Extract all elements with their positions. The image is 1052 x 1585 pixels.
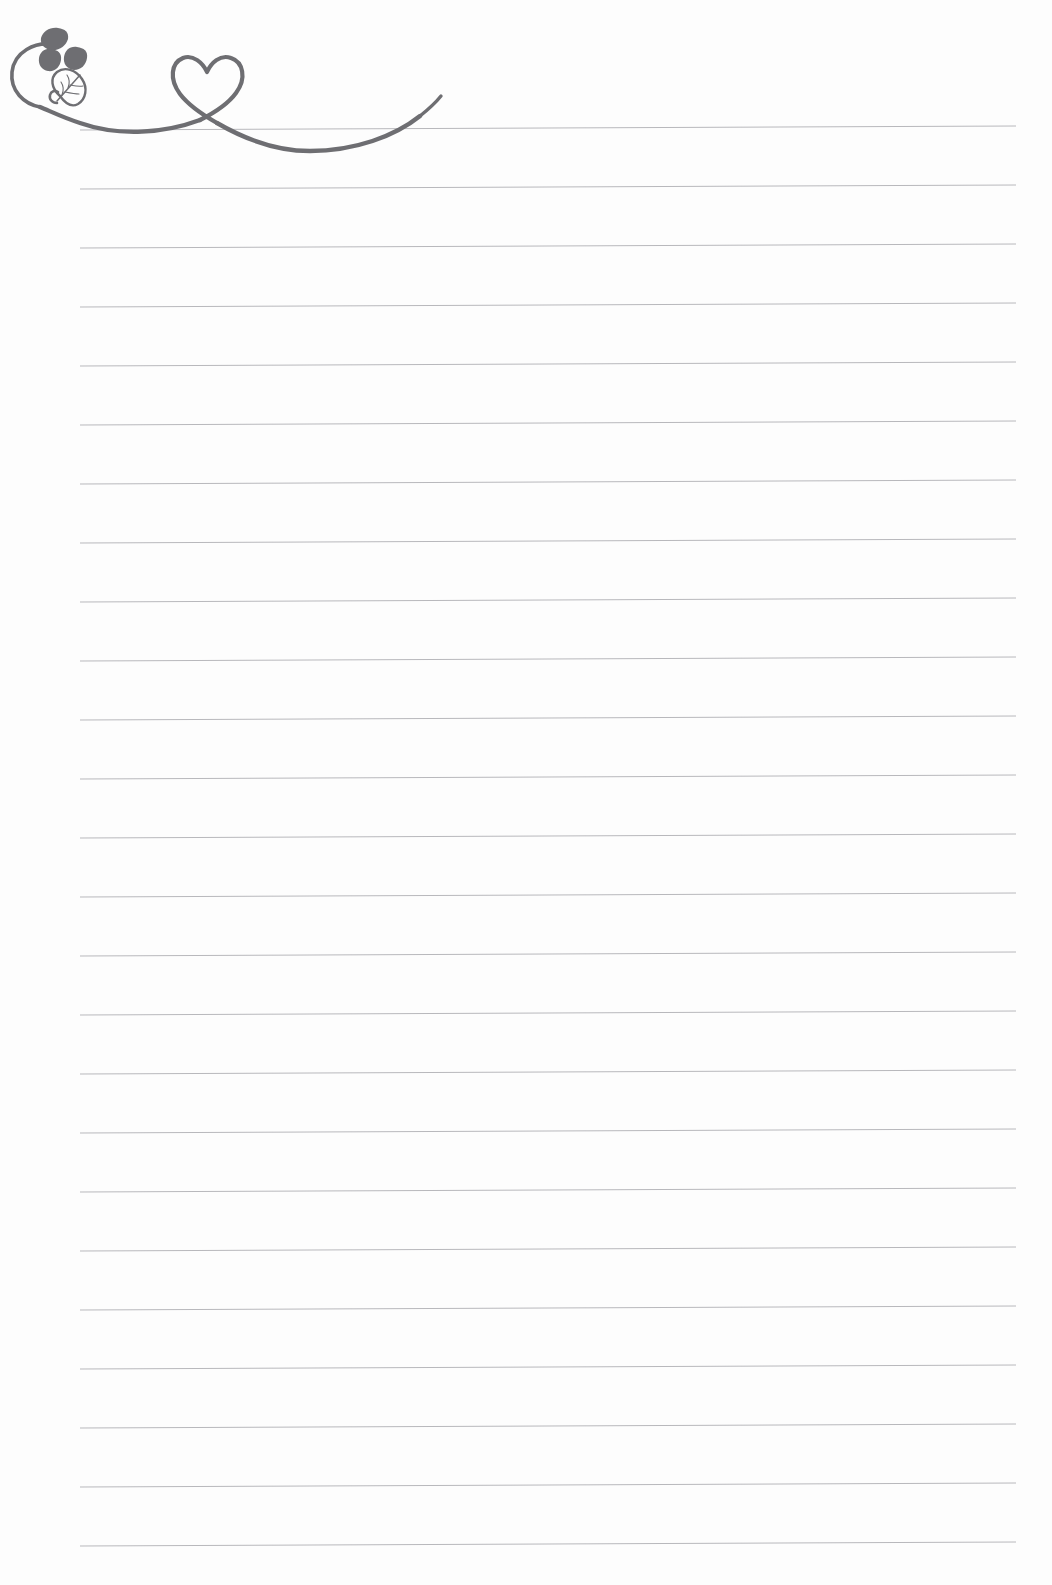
leaf-vein-3: [65, 92, 79, 94]
leaf-vein-1: [61, 82, 63, 95]
stationery-page: [0, 0, 1052, 1585]
leaf-vein-2: [67, 75, 69, 88]
leaf-vein-4: [70, 85, 83, 86]
upturned-tail: [420, 96, 441, 116]
writing-area[interactable]: [80, 130, 1016, 1550]
leaf-small-top: [41, 28, 68, 50]
leaf-small-right: [64, 47, 87, 70]
sweeping-curve-left: [40, 107, 200, 132]
leaf-small-left: [39, 49, 61, 71]
heart-loop: [173, 57, 243, 123]
